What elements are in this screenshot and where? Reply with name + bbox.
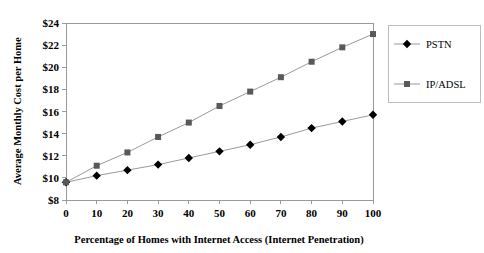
data-point-square — [63, 179, 69, 185]
y-tick-label: $22 — [43, 39, 60, 51]
plot-frame — [66, 23, 373, 200]
data-point-diamond — [93, 171, 101, 179]
data-point-diamond — [369, 111, 377, 119]
y-axis-title-group: Average Monthly Cost per Home — [12, 37, 23, 185]
x-axis-title: Percentage of Homes with Internet Access… — [74, 234, 364, 246]
legend-label-ip-adsl: IP/ADSL — [426, 79, 466, 90]
x-axis-title-group: Percentage of Homes with Internet Access… — [74, 234, 364, 246]
x-tick-label: 0 — [63, 207, 69, 219]
y-tick-label: $16 — [43, 106, 60, 118]
y-tick-label: $24 — [43, 17, 60, 29]
y-tick-label: $18 — [43, 83, 60, 95]
x-tick-label: 90 — [337, 207, 349, 219]
y-axis-title: Average Monthly Cost per Home — [12, 37, 23, 185]
data-point-square — [247, 89, 253, 95]
y-tick-label: $20 — [43, 61, 60, 73]
data-point-square — [339, 44, 345, 50]
data-point-diamond — [277, 133, 285, 141]
data-point-diamond — [338, 117, 346, 125]
legend-label-pstn: PSTN — [426, 39, 452, 50]
chart-legend: PSTNIP/ADSL — [388, 25, 480, 102]
data-point-square — [217, 103, 223, 109]
data-point-square — [309, 59, 315, 65]
data-point-square — [155, 134, 161, 140]
line-chart: Average Monthly Cost per Home $8$10$12$1… — [0, 0, 484, 253]
series-layer — [62, 31, 377, 186]
x-tick-label: 10 — [91, 207, 103, 219]
data-point-square — [186, 120, 192, 126]
data-point-square — [278, 74, 284, 80]
x-tick-label: 100 — [365, 207, 382, 219]
x-tick-label: 40 — [183, 207, 195, 219]
data-point-diamond — [123, 166, 131, 174]
x-tick-label: 70 — [275, 207, 287, 219]
x-tick-label: 80 — [306, 207, 318, 219]
y-tick-label: $10 — [43, 172, 60, 184]
y-tick-label: $14 — [43, 128, 60, 140]
series-pstn — [62, 111, 377, 187]
data-point-diamond — [246, 140, 254, 148]
x-tick-label: 60 — [245, 207, 257, 219]
series-ip-adsl — [63, 31, 376, 185]
x-tick-label: 30 — [153, 207, 165, 219]
x-tick-label: 50 — [214, 207, 226, 219]
data-point-diamond — [215, 147, 223, 155]
data-point-diamond — [185, 154, 193, 162]
x-tick-label: 20 — [122, 207, 134, 219]
x-axis-ticks: 0102030405060708090100 — [63, 200, 382, 219]
data-point-square — [94, 163, 100, 169]
data-point-diamond — [307, 124, 315, 132]
data-point-square — [370, 31, 376, 37]
y-tick-label: $8 — [48, 194, 60, 206]
data-point-square — [404, 81, 410, 87]
chart-container: Average Monthly Cost per Home $8$10$12$1… — [0, 0, 484, 253]
y-axis-ticks: $8$10$12$14$16$18$20$22$24 — [43, 17, 67, 206]
data-point-square — [124, 149, 130, 155]
data-point-diamond — [154, 160, 162, 168]
y-tick-label: $12 — [43, 150, 60, 162]
